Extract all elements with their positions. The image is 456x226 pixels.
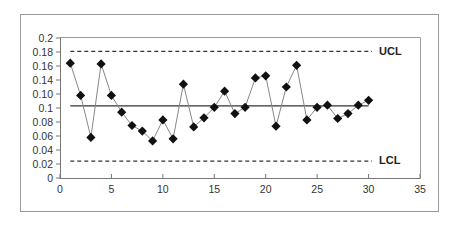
outer-frame <box>21 15 439 212</box>
x-tick-label: 20 <box>260 183 272 195</box>
ucl-label: UCL <box>379 45 402 57</box>
y-tick-label: 0.02 <box>33 158 54 170</box>
y-tick-label: 0.08 <box>33 116 54 128</box>
y-tick-label: 0 <box>47 172 53 184</box>
y-tick-label: 0.06 <box>33 130 54 142</box>
x-tick-label: 10 <box>157 183 169 195</box>
control-chart: 00.020.040.060.080.10.100.140.160.180.2 … <box>0 0 456 226</box>
x-tick-label: 35 <box>414 183 426 195</box>
x-tick-label: 25 <box>311 183 323 195</box>
y-tick-label: 0.10 <box>33 88 54 100</box>
y-tick-label: 0.1 <box>38 102 53 114</box>
x-tick-label: 0 <box>57 183 63 195</box>
x-tick-label: 5 <box>109 183 115 195</box>
y-tick-label: 0.14 <box>33 74 54 86</box>
y-tick-label: 0.2 <box>38 32 53 44</box>
x-tick-label: 15 <box>208 183 220 195</box>
lcl-label: LCL <box>379 154 401 166</box>
x-tick-label: 30 <box>363 183 375 195</box>
y-tick-label: 0.04 <box>33 144 54 156</box>
y-tick-label: 0.18 <box>33 46 54 58</box>
y-tick-label: 0.16 <box>33 60 54 72</box>
